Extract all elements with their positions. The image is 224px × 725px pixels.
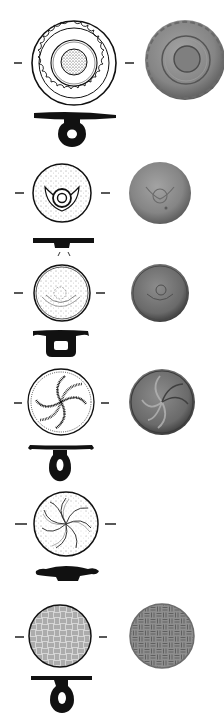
button-plate-illustration [0, 0, 224, 725]
profile-drawing [31, 676, 92, 713]
profile-drawing [28, 445, 94, 481]
profile-drawing [34, 112, 116, 147]
profile-drawing [33, 238, 94, 256]
button-photo [130, 604, 194, 668]
button-drawing-concentric [32, 21, 116, 105]
item-1 [14, 20, 224, 147]
button-photo [129, 162, 191, 224]
item-4 [14, 369, 195, 481]
button-drawing-whirl-hatched [28, 369, 94, 435]
profile-drawing [33, 330, 89, 357]
item-5 [15, 492, 116, 581]
button-drawing-rings-lunula [33, 164, 91, 222]
item-2 [15, 162, 191, 256]
profile-drawing [36, 566, 99, 581]
button-photo [131, 264, 189, 322]
button-drawing-basketweave [29, 605, 91, 667]
button-drawing-faint-arcs [34, 265, 90, 321]
button-photo [145, 20, 224, 100]
item-3 [14, 264, 189, 357]
button-photo [129, 369, 195, 435]
item-6 [15, 604, 194, 713]
button-drawing-whirl-stippled [34, 492, 98, 556]
